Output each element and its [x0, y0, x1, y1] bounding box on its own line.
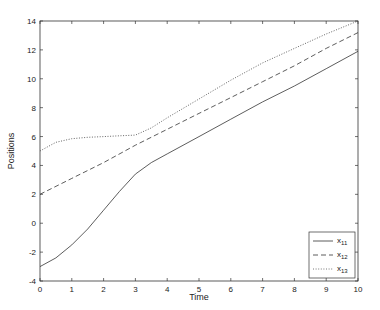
x-tick-label: 10: [354, 285, 363, 294]
x-tick-label: 0: [38, 285, 43, 294]
y-tick-label: -4: [29, 277, 37, 286]
y-tick-label: -2: [29, 248, 37, 257]
y-tick-label: 12: [27, 46, 36, 55]
plot-lines: [40, 21, 358, 267]
x-tick-label: 7: [260, 285, 265, 294]
y-tick-label: 2: [32, 190, 37, 199]
x-tick-label: 1: [70, 285, 75, 294]
x-tick-label: 3: [133, 285, 138, 294]
x-axis-label: Time: [189, 292, 209, 302]
line-chart: 012345678910-4-202468101214 x11x12x13 Ti…: [0, 0, 380, 310]
series-x12: [40, 33, 358, 195]
x-tick-label: 6: [229, 285, 234, 294]
y-tick-label: 0: [32, 219, 37, 228]
y-tick-label: 4: [32, 161, 37, 170]
y-tick-label: 8: [32, 104, 37, 113]
y-tick-label: 6: [32, 133, 37, 142]
legend: x11x12x13: [309, 232, 355, 278]
x-tick-label: 9: [324, 285, 329, 294]
y-tick-label: 14: [27, 17, 36, 26]
series-x13: [40, 21, 358, 151]
x-tick-label: 2: [101, 285, 106, 294]
x-tick-label: 4: [165, 285, 170, 294]
y-tick-label: 10: [27, 75, 36, 84]
y-axis-label: Positions: [6, 132, 16, 169]
x-tick-label: 8: [292, 285, 297, 294]
